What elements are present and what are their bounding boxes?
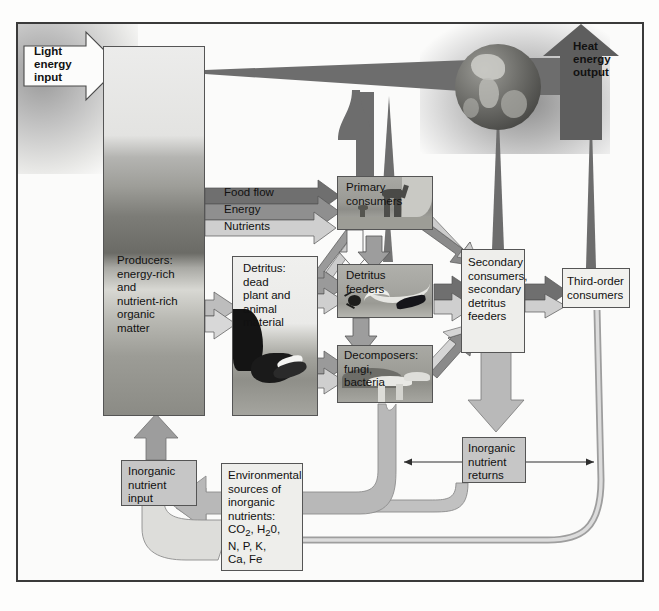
- node-inorganic-nutrient-returns-label: Inorganic nutrient returns: [468, 442, 526, 483]
- chem-line-1: CO2, H20,: [228, 523, 306, 540]
- node-environmental-sources-label: Environmental sources of inorganic nutri…: [228, 469, 306, 567]
- node-third-order-consumers-label: Third-order consumers: [567, 275, 631, 302]
- legend-item-nutrients: Nutrients: [224, 220, 270, 233]
- heat-energy-output-label: Heat energy output: [573, 40, 635, 79]
- node-secondary-consumers-label: Secondary consumers, secondary detritus …: [468, 256, 526, 324]
- node-inorganic-nutrient-input-label: Inorganic nutrient input: [128, 465, 198, 506]
- node-detritus-label: Detritus: dead plant and animal material: [243, 262, 315, 330]
- node-producers-label: Producers: energy-rich and nutrient-rich…: [117, 254, 201, 335]
- node-primary-consumers-label: Primary consumers: [346, 181, 426, 208]
- light-energy-input-label: Light energy input: [34, 45, 94, 84]
- node-detritus-feeders-label: Detritus feeders: [346, 269, 426, 296]
- node-decomposers-label: Decomposers: fungi, bacteria: [344, 349, 434, 390]
- diagram-canvas: Producers: energy-rich and nutrient-rich…: [0, 0, 659, 611]
- node-producers[interactable]: [103, 46, 205, 416]
- legend-item-energy: Energy: [224, 203, 260, 216]
- earth-globe-icon: [455, 44, 541, 130]
- legend-item-food-flow: Food flow: [224, 186, 274, 199]
